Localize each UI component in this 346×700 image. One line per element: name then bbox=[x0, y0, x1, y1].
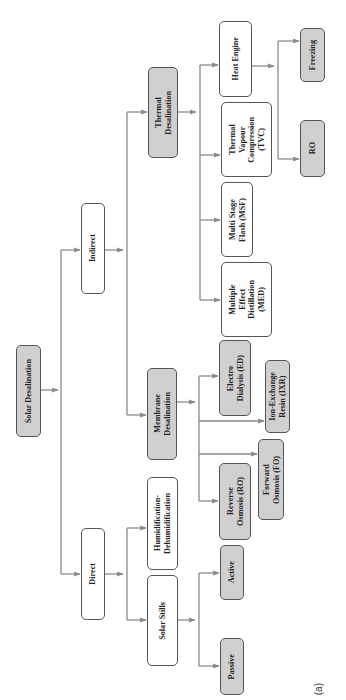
node-label: Heat Engine bbox=[231, 37, 241, 80]
node-label: Solar Desalination bbox=[24, 359, 34, 423]
node-label: Ion-Exchange Resin (IXR) bbox=[268, 372, 287, 421]
node-thermal-vapour-compression: Thermal Vapour Compression (TVC) bbox=[221, 102, 272, 177]
node-label: Electro Dialysis (ED) bbox=[226, 355, 245, 401]
node-label: Reverse Osmosis (RO) bbox=[226, 477, 245, 526]
node-humidification-dehumidification: Humidification- Dehumidification bbox=[147, 477, 178, 570]
node-label: Solar Stills bbox=[158, 602, 168, 640]
node-label: Thermal Desalination bbox=[154, 91, 173, 135]
node-label: Freezing bbox=[308, 40, 318, 70]
solar-desalination-diagram: Solar Desalination Direct Indirect Solar… bbox=[0, 0, 346, 700]
node-electro-dialysis: Electro Dialysis (ED) bbox=[219, 340, 251, 416]
node-label: RO bbox=[308, 142, 318, 154]
node-indirect: Indirect bbox=[81, 203, 105, 294]
node-ion-exchange-resin: Ion-Exchange Resin (IXR) bbox=[265, 360, 290, 433]
node-forward-osmosis: Forward Osmosis (FO) bbox=[258, 439, 284, 520]
node-label: Direct bbox=[88, 563, 98, 585]
node-heat-engine: Heat Engine bbox=[219, 21, 252, 97]
node-active: Active bbox=[220, 545, 244, 600]
node-label: Active bbox=[227, 561, 237, 583]
node-label: Indirect bbox=[88, 234, 98, 262]
node-passive: Passive bbox=[220, 638, 244, 695]
node-multiple-effect-distillation: Multiple Effect Distillation (MED) bbox=[221, 262, 272, 337]
node-ro-thermal: RO bbox=[300, 120, 325, 177]
node-label: Membrane Desalination bbox=[153, 392, 172, 436]
node-multi-stage-flash: Multi Stage Flash (MSF) bbox=[221, 182, 253, 257]
node-label: Multi Stage Flash (MSF) bbox=[228, 198, 247, 242]
node-label: Passive bbox=[227, 654, 237, 679]
node-label: Multiple Effect Distillation (MED) bbox=[228, 280, 266, 319]
node-reverse-osmosis: Reverse Osmosis (RO) bbox=[219, 463, 251, 540]
figure-caption: (a) bbox=[313, 683, 324, 695]
node-solar-desalination: Solar Desalination bbox=[16, 345, 41, 437]
node-label: Humidification- Dehumidification bbox=[153, 493, 172, 554]
node-direct: Direct bbox=[81, 528, 105, 620]
node-membrane-desalination: Membrane Desalination bbox=[147, 368, 177, 460]
node-freezing: Freezing bbox=[300, 28, 325, 82]
node-label: Thermal Vapour Compression (TVC) bbox=[228, 117, 266, 163]
node-solar-stills: Solar Stills bbox=[147, 575, 178, 666]
node-label: Forward Osmosis (FO) bbox=[262, 456, 281, 504]
node-thermal-desalination: Thermal Desalination bbox=[148, 67, 178, 158]
